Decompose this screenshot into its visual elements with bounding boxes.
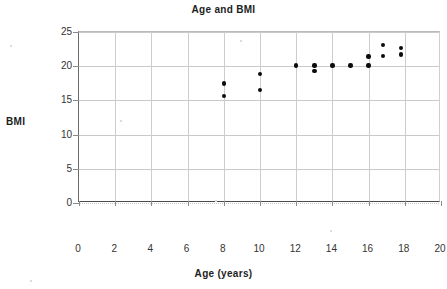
x-tick-label: 14 bbox=[316, 243, 346, 254]
y-axis-title: BMI bbox=[6, 116, 26, 127]
gridline-vertical bbox=[260, 32, 261, 201]
gridline-vertical bbox=[405, 32, 406, 201]
y-tick-mark bbox=[73, 135, 79, 136]
x-tick-label: 16 bbox=[353, 243, 383, 254]
chart-title: Age and BMI bbox=[0, 4, 447, 15]
scan-speck bbox=[10, 45, 12, 47]
x-tick-label: 0 bbox=[63, 243, 93, 254]
data-point bbox=[381, 43, 385, 47]
scatter-chart: Age and BMI 0510152025 02468101214161820… bbox=[0, 0, 447, 289]
data-point bbox=[258, 88, 262, 92]
x-tick-label: 6 bbox=[172, 243, 202, 254]
data-point bbox=[258, 72, 262, 76]
x-tick-mark bbox=[296, 201, 297, 206]
x-tick-label: 8 bbox=[208, 243, 238, 254]
data-point bbox=[381, 54, 385, 58]
x-tick-mark bbox=[260, 201, 261, 206]
x-tick-label: 20 bbox=[425, 243, 447, 254]
x-axis-tick-labels: 02468101214161820 bbox=[78, 243, 440, 259]
data-point bbox=[222, 81, 226, 85]
gridline-horizontal bbox=[79, 203, 439, 204]
x-tick-label: 10 bbox=[244, 243, 274, 254]
scan-speck bbox=[330, 230, 332, 232]
y-tick-label: 20 bbox=[38, 60, 72, 71]
y-axis-tick-labels: 0510152025 bbox=[30, 31, 72, 202]
data-point bbox=[366, 54, 370, 58]
x-tick-mark bbox=[224, 201, 225, 206]
x-tick-mark bbox=[115, 201, 116, 206]
x-tick-mark bbox=[188, 201, 189, 206]
y-tick-label: 5 bbox=[38, 162, 72, 173]
y-tick-mark bbox=[73, 100, 79, 101]
scan-speck bbox=[240, 40, 242, 42]
x-tick-label: 2 bbox=[99, 243, 129, 254]
gridline-vertical bbox=[188, 32, 189, 201]
x-tick-label: 18 bbox=[389, 243, 419, 254]
gridline-vertical bbox=[224, 32, 225, 201]
gridline-vertical bbox=[332, 32, 333, 201]
x-tick-mark bbox=[151, 201, 152, 206]
gridline-vertical bbox=[151, 32, 152, 201]
x-tick-mark bbox=[79, 201, 80, 206]
y-tick-mark bbox=[73, 32, 79, 33]
data-point bbox=[348, 63, 352, 67]
x-tick-mark bbox=[369, 201, 370, 206]
x-tick-label: 12 bbox=[280, 243, 310, 254]
data-point bbox=[312, 69, 316, 73]
y-tick-label: 10 bbox=[38, 128, 72, 139]
gridline-horizontal bbox=[79, 135, 439, 136]
y-tick-label: 15 bbox=[38, 94, 72, 105]
data-point bbox=[222, 94, 226, 98]
gridline-horizontal bbox=[79, 66, 439, 67]
x-tick-mark bbox=[405, 201, 406, 206]
data-point bbox=[399, 52, 403, 56]
x-tick-mark bbox=[332, 201, 333, 206]
data-point bbox=[312, 63, 316, 67]
gridline-horizontal bbox=[79, 32, 439, 33]
data-point bbox=[366, 63, 370, 67]
y-tick-label: 25 bbox=[38, 26, 72, 37]
gridline-vertical bbox=[296, 32, 297, 201]
gridline-horizontal bbox=[79, 169, 439, 170]
scan-speck bbox=[120, 120, 122, 122]
y-tick-mark bbox=[73, 66, 79, 67]
data-point bbox=[399, 46, 403, 50]
scan-speck bbox=[30, 280, 32, 282]
x-tick-mark bbox=[441, 201, 442, 206]
plot-area bbox=[78, 31, 440, 202]
data-point bbox=[330, 63, 334, 67]
gridline-horizontal bbox=[79, 100, 439, 101]
gridline-vertical bbox=[115, 32, 116, 201]
y-tick-mark bbox=[73, 169, 79, 170]
scan-speck bbox=[215, 200, 217, 202]
x-tick-label: 4 bbox=[135, 243, 165, 254]
x-axis-title: Age (years) bbox=[0, 268, 447, 279]
y-tick-label: 0 bbox=[38, 197, 72, 208]
